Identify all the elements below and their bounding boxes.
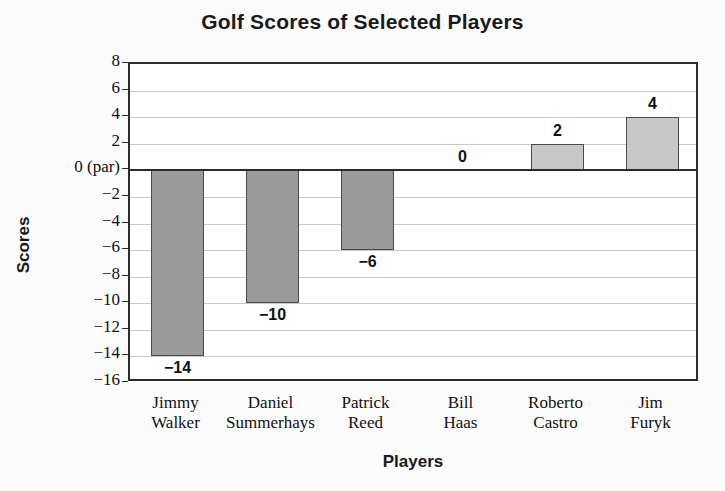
y-axis-tick-mark — [122, 62, 128, 63]
x-axis-label-line: Furyk — [591, 413, 711, 433]
y-axis-tick-label: −10 — [0, 290, 120, 310]
bar-value-label: 2 — [513, 122, 603, 140]
bar — [531, 144, 584, 171]
y-axis-tick-mark — [122, 275, 128, 276]
bar — [246, 170, 299, 303]
y-axis-tick-label: −6 — [0, 237, 120, 257]
y-axis-tick-label: −12 — [0, 317, 120, 337]
y-axis-tick-mark — [122, 142, 128, 143]
chart-page: Golf Scores of Selected Players Scores −… — [0, 0, 725, 491]
y-axis-tick-mark — [122, 115, 128, 116]
y-axis-tick-mark — [122, 195, 128, 196]
y-axis-tick-mark — [122, 168, 128, 169]
y-axis-tick-mark — [122, 222, 128, 223]
y-axis-tick-label: 6 — [0, 78, 120, 98]
y-axis-tick-label: 0 (par) — [0, 157, 120, 177]
bar — [341, 170, 394, 250]
gridline — [130, 197, 696, 198]
bar — [626, 117, 679, 170]
y-axis-tick-label: −14 — [0, 343, 120, 363]
y-axis-tick-mark — [122, 301, 128, 302]
gridline — [130, 356, 696, 357]
y-axis-tick-label: −16 — [0, 370, 120, 390]
bar — [151, 170, 204, 356]
gridline — [130, 224, 696, 225]
bar-value-label: 4 — [608, 95, 698, 113]
gridline — [130, 250, 696, 251]
x-axis-label-line: Jim — [591, 393, 711, 413]
gridline — [130, 330, 696, 331]
y-axis-tick-mark — [122, 248, 128, 249]
bar-value-label: 0 — [418, 148, 508, 166]
y-axis-tick-label: 2 — [0, 131, 120, 151]
y-axis-tick-mark — [122, 89, 128, 90]
y-axis-tick-mark — [122, 381, 128, 382]
plot-area: −14−10−6024 — [128, 62, 698, 381]
y-axis-tick-label: 8 — [0, 51, 120, 71]
chart-title: Golf Scores of Selected Players — [0, 10, 725, 34]
gridline — [130, 277, 696, 278]
gridline — [130, 117, 696, 118]
gridline — [130, 144, 696, 145]
gridline — [130, 303, 696, 304]
bar-value-label: −14 — [133, 359, 223, 377]
y-axis-tick-mark — [122, 354, 128, 355]
bar-value-label: −10 — [228, 306, 318, 324]
y-axis-tick-mark — [122, 328, 128, 329]
bar-value-label: −6 — [323, 253, 413, 271]
y-axis-tick-label: 4 — [0, 104, 120, 124]
y-axis-tick-label: −4 — [0, 211, 120, 231]
y-axis-tick-label: −8 — [0, 264, 120, 284]
gridline — [130, 91, 696, 92]
y-axis-tick-label: −2 — [0, 184, 120, 204]
zero-line — [130, 169, 696, 171]
x-axis-title: Players — [128, 452, 698, 472]
x-axis-category-label: JimFuryk — [591, 393, 711, 433]
